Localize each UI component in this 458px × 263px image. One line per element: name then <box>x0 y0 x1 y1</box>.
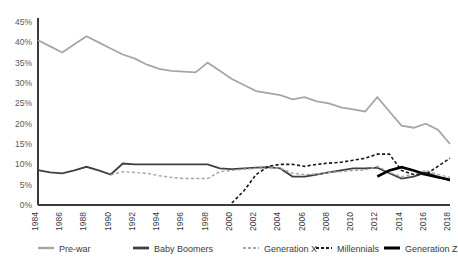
x-tick-label: 2016 <box>418 212 428 231</box>
x-tick-label: 2008 <box>321 212 331 231</box>
x-tick-label: 2014 <box>394 212 404 231</box>
y-tick-label: 25% <box>15 98 32 108</box>
legend-label-generation-z: Generation Z <box>405 244 458 254</box>
x-tick-label: 2012 <box>369 212 379 231</box>
legend-label-baby-boomers: Baby Boomers <box>154 244 214 254</box>
x-tick-label: 2002 <box>248 212 258 231</box>
x-tick-label: 1992 <box>127 212 137 231</box>
x-tick-label: 1984 <box>30 212 40 231</box>
y-tick-label: 40% <box>15 37 32 47</box>
chart-canvas: 0%5%10%15%20%25%30%35%40%45% 19841986198… <box>0 0 458 263</box>
x-tick-label: 2018 <box>442 212 452 231</box>
x-tick-label: 1990 <box>103 212 113 231</box>
legend-label-pre-war: Pre-war <box>59 244 91 254</box>
legend-label-millennials: Millennials <box>337 244 380 254</box>
x-tick-label: 2006 <box>297 212 307 231</box>
x-tick-label: 1994 <box>151 212 161 231</box>
line-chart: 0%5%10%15%20%25%30%35%40%45% 19841986198… <box>0 0 458 263</box>
y-tick-label: 5% <box>20 180 33 190</box>
x-tick-label: 2004 <box>272 212 282 231</box>
legend-label-generation-x: Generation X <box>264 244 317 254</box>
x-tick-label: 1998 <box>200 212 210 231</box>
x-tick-label: 1988 <box>78 212 88 231</box>
y-tick-label: 45% <box>15 17 32 27</box>
y-tick-label: 0% <box>20 200 33 210</box>
x-tick-label: 1996 <box>175 212 185 231</box>
x-tick-label: 2000 <box>224 212 234 231</box>
y-tick-label: 30% <box>15 78 32 88</box>
y-tick-label: 10% <box>15 159 32 169</box>
x-tick-label: 2010 <box>345 212 355 231</box>
x-tick-label: 1986 <box>54 212 64 231</box>
y-tick-label: 20% <box>15 119 32 129</box>
y-tick-label: 15% <box>15 139 32 149</box>
y-tick-label: 35% <box>15 58 32 68</box>
